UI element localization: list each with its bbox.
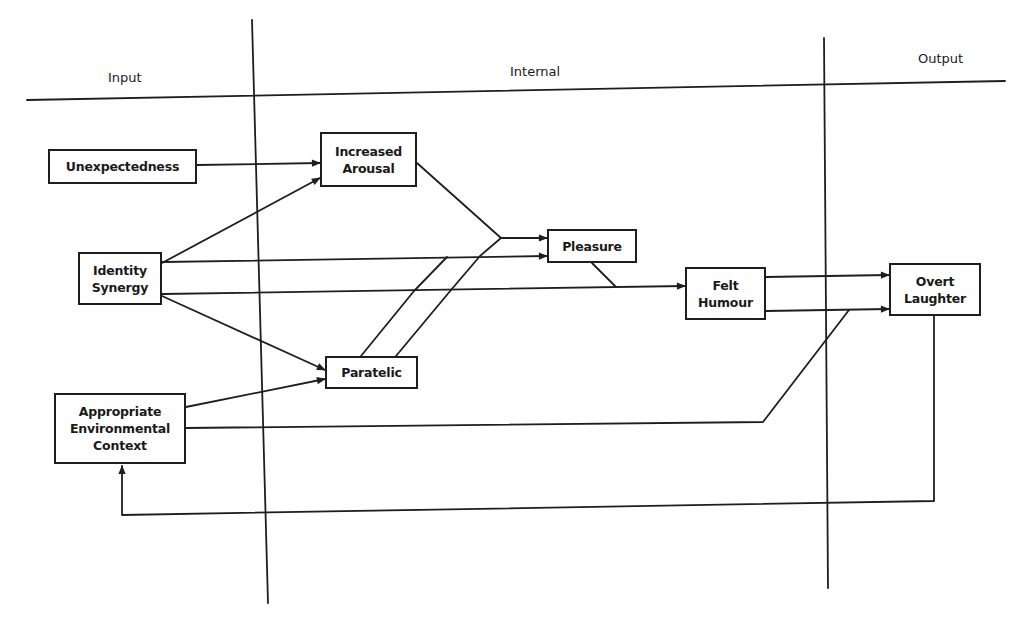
node-pleasure: Pleasure	[547, 229, 637, 263]
column-label-output: Output	[918, 51, 963, 66]
node-identity-synergy: Identity Synergy	[78, 252, 162, 305]
header-divider-line	[27, 81, 1005, 100]
node-felt-humour: Felt Humour	[685, 267, 766, 320]
diagram-wires	[0, 0, 1033, 626]
column-divider-input-internal	[252, 20, 268, 603]
node-paratelic: Paratelic	[325, 356, 418, 389]
node-unexpectedness: Unexpectedness	[48, 149, 197, 184]
node-increased-arousal: Increased Arousal	[320, 132, 417, 187]
node-overt-laughter: Overt Laughter	[889, 263, 981, 316]
column-divider-internal-output	[824, 38, 828, 588]
column-label-input: Input	[108, 70, 142, 85]
node-appropriate-environmental-context: Appropriate Environmental Context	[54, 393, 186, 464]
column-label-internal: Internal	[510, 64, 560, 79]
